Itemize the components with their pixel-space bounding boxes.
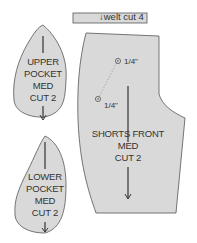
dart-measure-lower: 1/4" (104, 101, 118, 110)
dart-measure-upper: 1/4" (124, 57, 138, 66)
lower-pocket-label: LOWER POCKET MED CUT 2 (16, 171, 74, 219)
upper-pocket-label: UPPER POCKET MED CUT 2 (14, 56, 72, 104)
welt-label: ↓welt cut 4 (99, 11, 144, 22)
shorts-front-label: SHORTS FRONT MED CUT 2 (88, 128, 168, 164)
